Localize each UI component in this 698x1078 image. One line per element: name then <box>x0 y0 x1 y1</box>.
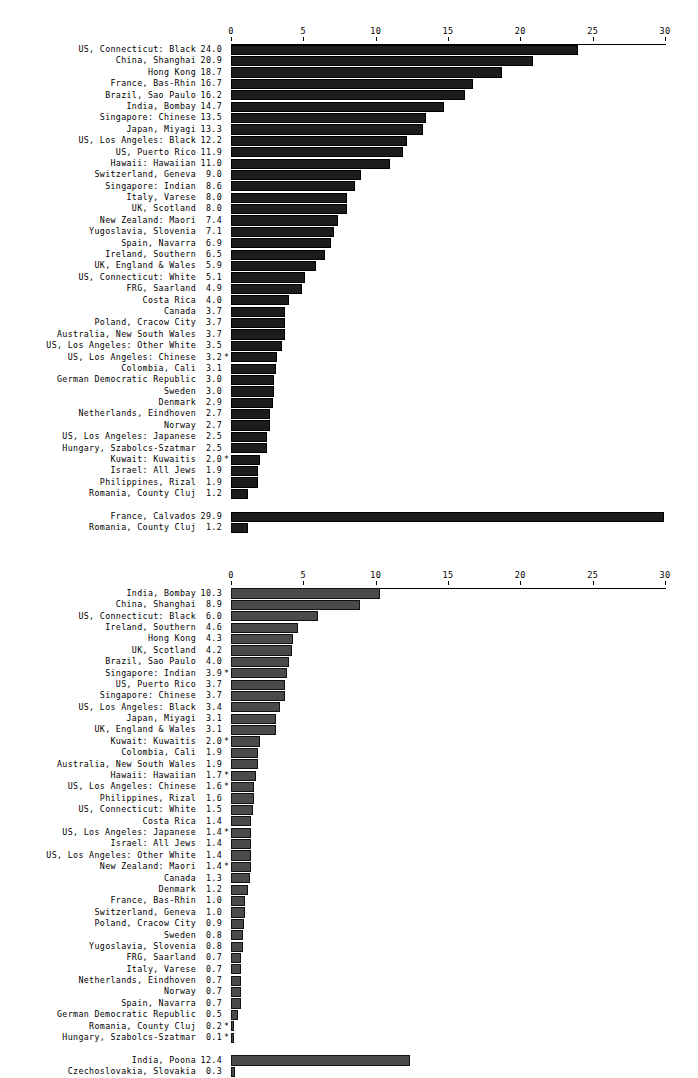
bar-track <box>231 633 666 644</box>
xaxis-tick-mark <box>665 37 666 41</box>
value-label: 12.4 <box>196 1055 222 1066</box>
bar <box>231 523 248 533</box>
value-label: 4.0 <box>196 295 222 306</box>
chart-row: US, Connecticut: Black6.0 <box>0 611 698 622</box>
chart-row: US, Los Angeles: Chinese3.2* <box>0 352 698 363</box>
chart-row: New Zealand: Maori7.4 <box>0 215 698 226</box>
bar-track <box>231 226 666 237</box>
bar-track <box>231 907 666 918</box>
bar <box>231 816 251 826</box>
category-label: Kuwait: Kuwaitis <box>0 736 196 747</box>
bar-track <box>231 249 666 260</box>
category-label: Romania, County Cluj <box>0 522 196 533</box>
bar <box>231 759 258 769</box>
category-label: Spain, Navarra <box>0 238 196 249</box>
bar-track <box>231 158 666 169</box>
value-label: 11.0 <box>196 158 222 169</box>
category-label: Singapore: Chinese <box>0 690 196 701</box>
chart-row: Switzerland, Geneva9.0 <box>0 169 698 180</box>
category-label: Philippines, Rizal <box>0 793 196 804</box>
value-label: 6.9 <box>196 238 222 249</box>
bar-track <box>231 884 666 895</box>
xaxis-tick-label: 0 <box>228 570 234 580</box>
chart-row: Costa Rica4.0 <box>0 295 698 306</box>
xaxis-tick-mark <box>593 37 594 41</box>
bar-track <box>231 420 666 431</box>
category-label: Italy, Varese <box>0 192 196 203</box>
bar-track <box>231 599 666 610</box>
bar-track <box>231 668 666 679</box>
chart-row: Japan, Miyagi3.1 <box>0 713 698 724</box>
category-label: Brazil, Sao Paulo <box>0 656 196 667</box>
bar <box>231 930 243 940</box>
bar <box>231 181 355 191</box>
chart-row: Denmark2.9 <box>0 397 698 408</box>
chart-row: UK, Scotland8.0 <box>0 203 698 214</box>
xaxis-tick-label: 15 <box>442 570 453 580</box>
chart-row: US, Los Angeles: Japanese2.5 <box>0 431 698 442</box>
category-label: Israel: All Jews <box>0 838 196 849</box>
chart-row: Hungary, Szabolcs-Szatmar0.1* <box>0 1032 698 1043</box>
category-label: Brazil, Sao Paulo <box>0 90 196 101</box>
bar <box>231 691 285 701</box>
bar <box>231 45 578 55</box>
bar <box>231 466 258 476</box>
value-label: 29.9 <box>196 511 222 522</box>
category-label: German Democratic Republic <box>0 1009 196 1020</box>
category-label: Romania, County Cluj <box>0 488 196 499</box>
chart-row: Czechoslovakia, Slovakia0.3 <box>0 1066 698 1077</box>
category-label: Ireland, Southern <box>0 622 196 633</box>
chart-row: France, Bas-Rhin1.0 <box>0 895 698 906</box>
value-label: 3.7 <box>196 317 222 328</box>
bar <box>231 272 305 282</box>
bar-track <box>231 511 666 522</box>
category-label: Yugoslavia, Slovenia <box>0 941 196 952</box>
value-label: 4.0 <box>196 656 222 667</box>
bar-track <box>231 941 666 952</box>
value-label: 1.9 <box>196 477 222 488</box>
chart-row: US, Los Angeles: Other White1.4 <box>0 850 698 861</box>
category-label: Sweden <box>0 386 196 397</box>
value-label: 2.5 <box>196 443 222 454</box>
chart-row: Japan, Miyagi13.3 <box>0 124 698 135</box>
value-label: 1.2 <box>196 884 222 895</box>
category-label: Switzerland, Geneva <box>0 169 196 180</box>
chart-row: Denmark1.2 <box>0 884 698 895</box>
value-label: 3.1 <box>196 363 222 374</box>
category-label: Norway <box>0 420 196 431</box>
bar-track <box>231 588 666 599</box>
value-label: 3.1 <box>196 724 222 735</box>
category-label: UK, Scotland <box>0 645 196 656</box>
bar-track <box>231 975 666 986</box>
chart-row: Norway0.7 <box>0 986 698 997</box>
category-label: US, Los Angeles: Japanese <box>0 431 196 442</box>
chart-row: Sweden0.8 <box>0 930 698 941</box>
bar-track <box>231 781 666 792</box>
category-label: US, Connecticut: Black <box>0 611 196 622</box>
value-label: 1.2 <box>196 488 222 499</box>
bar-track <box>231 952 666 963</box>
value-label: 1.7 <box>196 770 222 781</box>
value-label: 0.2 <box>196 1021 222 1032</box>
category-label: India, Bombay <box>0 101 196 112</box>
value-label: 1.4 <box>196 850 222 861</box>
bar <box>231 1033 234 1043</box>
category-label: Netherlands, Eindhoven <box>0 408 196 419</box>
chart-bottom-xaxis: 051015202530 <box>231 570 665 588</box>
chart-row: FRG, Saarland0.7 <box>0 952 698 963</box>
bar <box>231 352 277 362</box>
bar-track <box>231 67 666 78</box>
bar <box>231 839 251 849</box>
bar <box>231 725 276 735</box>
value-label: 13.3 <box>196 124 222 135</box>
category-label: Colombia, Cali <box>0 747 196 758</box>
chart-row: Romania, County Cluj0.2* <box>0 1021 698 1032</box>
category-label: Costa Rica <box>0 295 196 306</box>
chart-row: Italy, Varese0.7 <box>0 964 698 975</box>
value-label: 3.9 <box>196 668 222 679</box>
value-label: 14.7 <box>196 101 222 112</box>
bar-track <box>231 295 666 306</box>
chart-row: Israel: All Jews1.4 <box>0 838 698 849</box>
bar-track <box>231 181 666 192</box>
category-label: Czechoslovakia, Slovakia <box>0 1066 196 1077</box>
